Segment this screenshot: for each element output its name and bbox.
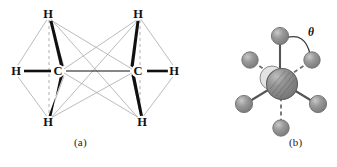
sphere-front-lower-left	[235, 95, 252, 112]
dihedral-angle-symbol: θ	[308, 26, 314, 38]
atom-label-h-top-left: H	[43, 7, 53, 21]
guide-line	[142, 74, 175, 118]
dihedral-angle-arc	[286, 37, 310, 54]
atom-label-h-bottom-left: H	[43, 115, 53, 129]
sphere-back-bottom	[273, 120, 289, 136]
sphere-back-upper-right	[304, 52, 320, 68]
guide-line	[16, 18, 48, 68]
panel-a-caption: (a)	[74, 136, 87, 148]
bond-wedge-top-right	[131, 21, 140, 68]
atom-label-carbon-left: C	[53, 64, 62, 78]
sphere-front-top	[271, 27, 288, 44]
guide-line	[140, 18, 175, 68]
bond-wedge-top-left	[50, 21, 64, 68]
atom-label-h-right-right: H	[169, 64, 179, 78]
panel-b-caption: (b)	[289, 136, 302, 148]
atom-label-h-left-left: H	[11, 64, 21, 78]
guide-line	[64, 73, 141, 119]
bond-wedge-bottom-right	[132, 73, 144, 116]
front-carbon-atom	[267, 69, 298, 100]
sphere-front-lower-right	[309, 95, 326, 112]
sphere-back-upper-left	[242, 52, 258, 68]
chemistry-figure: H H H C C H H H	[0, 0, 337, 167]
guide-line	[16, 74, 48, 118]
panel-b-newman-projection: θ	[222, 8, 337, 143]
bond-wedge-bottom-left	[49, 73, 64, 116]
panel-a-ethane-diagram: H H H C C H H H	[0, 0, 230, 135]
tetrahedron-guide-lines	[16, 18, 175, 120]
atom-label-h-bottom-right: H	[137, 115, 147, 129]
atom-label-h-top-right: H	[133, 7, 143, 21]
atom-label-carbon-right: C	[133, 64, 142, 78]
